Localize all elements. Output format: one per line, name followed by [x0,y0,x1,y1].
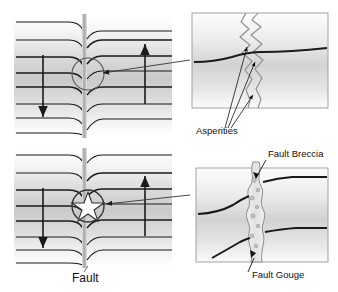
fault-breccia-label: Fault Breccia [268,148,324,159]
asperities-detail-inset: Asperities [192,13,328,136]
asperities-label: Asperities [196,125,238,136]
fault-block-diagram-upper [14,14,190,138]
fault-gouge-label: Fault Gouge [252,269,304,280]
fault-zone-diagram: Asperities Fau [0,0,338,292]
fault-zone-detail-inset: Fault Breccia Fault Gouge [196,148,328,280]
fault-plane-upper [82,14,87,138]
fault-label: Fault [72,271,99,285]
fault-block-diagram-lower: Fault [14,148,190,285]
